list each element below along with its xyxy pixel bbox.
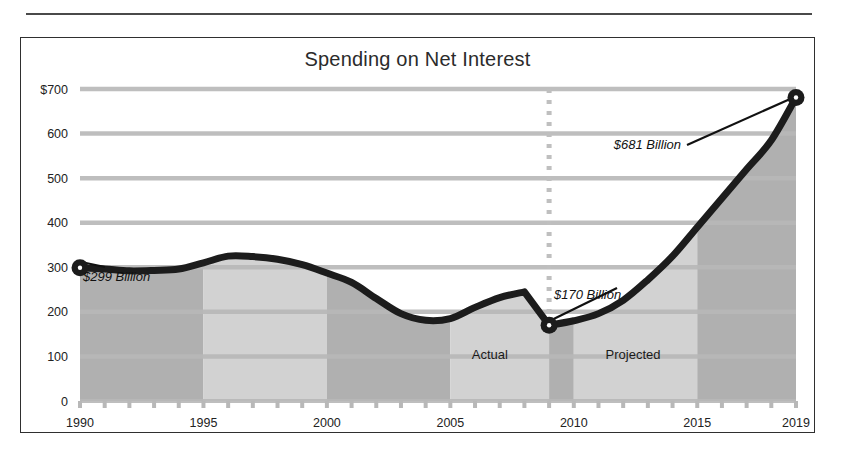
period-label-projected: Projected — [606, 347, 661, 362]
x-axis-label-1995: 1995 — [190, 416, 218, 430]
chart-plot-area: $7006005004003002001000 1990199520002005… — [21, 38, 816, 434]
page-root: Spending on Net Interest $70060050040030… — [0, 0, 841, 454]
x-axis-label-2019: 2019 — [782, 416, 810, 430]
x-axis-label-1990: 1990 — [66, 416, 94, 430]
x-axis-label-2010: 2010 — [560, 416, 588, 430]
annotation-1990-value: $299 Billion — [82, 269, 150, 284]
y-axis-label-0: 0 — [61, 395, 68, 409]
x-axis-label-2000: 2000 — [313, 416, 341, 430]
y-axis-label-300: 300 — [47, 261, 68, 275]
y-axis-label-700: $700 — [40, 83, 68, 97]
annotation-2019-value: $681 Billion — [613, 137, 681, 152]
y-axis-labels: $7006005004003002001000 — [40, 83, 68, 409]
year-bands — [80, 49, 796, 401]
year-band-2000-2005 — [327, 49, 450, 401]
period-label-actual: Actual — [472, 347, 508, 362]
annotation-2009-value: $170 Billion — [553, 287, 621, 302]
y-axis-label-600: 600 — [47, 127, 68, 141]
year-band-1990-1995 — [80, 49, 203, 401]
y-axis-label-200: 200 — [47, 305, 68, 319]
year-band-2009-2010 — [549, 49, 574, 401]
x-axis-label-2015: 2015 — [683, 416, 711, 430]
y-axis-label-100: 100 — [47, 350, 68, 364]
chart-frame: Spending on Net Interest $70060050040030… — [20, 37, 815, 433]
year-band-1995-2000 — [203, 49, 326, 401]
x-axis-label-2005: 2005 — [436, 416, 464, 430]
top-horizontal-rule — [26, 13, 812, 15]
y-axis-label-500: 500 — [47, 172, 68, 186]
data-marker-2009 — [541, 317, 558, 334]
y-axis-label-400: 400 — [47, 216, 68, 230]
data-marker-2019 — [788, 89, 805, 106]
x-axis-labels: 1990199520002005201020152019 — [66, 416, 810, 430]
